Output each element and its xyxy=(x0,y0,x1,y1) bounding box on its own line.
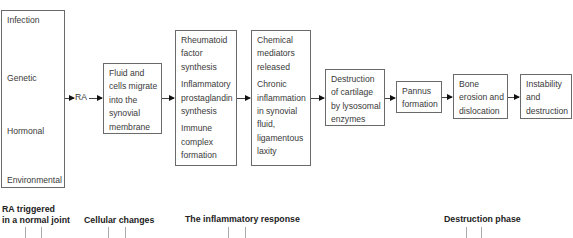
phase-destruction: Destruction phase xyxy=(444,214,521,225)
chemical-mediators-text: Chemical mediators released xyxy=(257,34,310,74)
instability-text: Instability and destruction xyxy=(526,78,571,118)
fluid-text: Fluid and cells migrate into the synovia… xyxy=(109,67,161,134)
prostaglandin-text: Inflammatory prostaglandin synthesis xyxy=(181,78,236,118)
tick-mark xyxy=(125,227,126,238)
tick-mark xyxy=(25,227,26,238)
phase-ra-triggered: RA triggered in a normal joint xyxy=(2,204,70,226)
arrow-ra-to-fluid xyxy=(89,98,102,99)
tick-mark xyxy=(228,227,229,238)
chronic-inflammation-text: Chronic inflammation in synovial fluid, … xyxy=(257,78,310,158)
phase-ra-triggered-line2: in a normal joint xyxy=(2,215,70,226)
arrow-pannus-to-bone xyxy=(442,97,452,98)
fluid-migration-box: Fluid and cells migrate into the synovia… xyxy=(103,63,162,134)
cartilage-text: Destruction of cartilage by lysosomal en… xyxy=(331,73,384,127)
arrow-bone-to-instability xyxy=(508,97,519,98)
tick-mark xyxy=(245,227,246,238)
phase-cellular-changes: Cellular changes xyxy=(84,215,154,226)
tick-mark xyxy=(41,227,42,238)
phase-inflammatory-response: The inflammatory response xyxy=(185,214,300,225)
arrow-cartilage-to-pannus xyxy=(385,98,395,99)
factor-environmental: Environmental xyxy=(7,174,62,187)
bone-erosion-box: Bone erosion and dislocation xyxy=(453,74,508,119)
tick-mark xyxy=(481,227,482,238)
phase-ra-triggered-line1: RA triggered xyxy=(2,204,70,215)
factor-hormonal: Hormonal xyxy=(7,125,44,138)
cartilage-destruction-box: Destruction of cartilage by lysosomal en… xyxy=(325,69,385,126)
pannus-formation-box: Pannus formation xyxy=(396,81,442,113)
tick-mark xyxy=(108,227,109,238)
ra-label: RA xyxy=(75,92,87,103)
pannus-text: Pannus formation xyxy=(402,85,441,112)
arrow-chemical-to-cartilage xyxy=(311,98,324,99)
arrow-fluid-to-rheumatoid xyxy=(162,98,174,99)
causal-factors-box: Infection Genetic Hormonal Environmental xyxy=(1,10,65,188)
tick-mark xyxy=(466,227,467,238)
factor-infection: Infection xyxy=(7,14,40,27)
rheumatoid-text: Rheumatoid factor synthesis xyxy=(181,34,236,74)
instability-box: Instability and destruction xyxy=(520,74,572,119)
bone-text: Bone erosion and dislocation xyxy=(459,78,507,118)
rheumatoid-factor-box: Rheumatoid factor synthesis Inflammatory… xyxy=(175,30,237,166)
arrow-rheumatoid-to-chemical xyxy=(237,98,250,99)
immune-complex-text: Immune complex formation xyxy=(181,122,236,162)
factor-genetic: Genetic xyxy=(7,72,37,85)
chemical-mediators-box: Chemical mediators released Chronic infl… xyxy=(251,30,311,166)
arrow-factors-to-ra xyxy=(65,98,74,99)
